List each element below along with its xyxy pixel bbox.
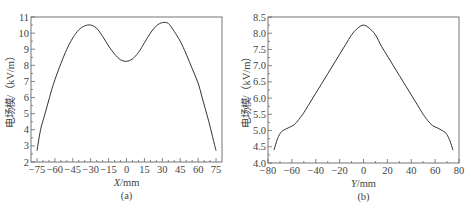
y-tick-label: 5.5 [253,109,266,120]
x-tick-label: −60 [47,164,63,175]
y-tick-label: 9 [24,44,29,55]
plot-frame [268,17,459,163]
x-tick-label: −15 [100,164,116,175]
x-tick-label: 45 [175,164,186,175]
x-tick-label: 40 [406,165,417,176]
y-tick-label: 4.0 [253,158,266,169]
plot-frame [31,17,222,162]
y-tick-label: 6 [24,92,29,103]
figure: −75−60−45−30−1501530456075234567891011X/… [0,0,471,210]
y-tick-label: 5.0 [253,125,266,136]
x-tick-label: 20 [382,165,393,176]
y-tick-label: 6.5 [253,76,266,87]
y-tick-label: 4 [24,124,30,135]
x-tick-label: 15 [139,164,150,175]
x-tick-label: 0 [124,164,129,175]
x-tick-label: −75 [29,164,45,175]
x-tick-label: −40 [308,165,324,176]
x-axis-title: Y/mm [351,178,376,189]
x-tick-label: −20 [331,165,347,176]
y-tick-label: 7.5 [253,44,266,55]
x-tick-label: −60 [284,165,300,176]
y-tick-label: 2 [24,157,29,168]
chart-a: −75−60−45−30−1501530456075234567891011X/… [4,12,222,203]
y-axis-title: 电场模/（kV/m） [4,51,16,128]
y-tick-label: 8.5 [253,12,266,23]
x-tick-label: 80 [454,165,465,176]
y-tick-label: 10 [19,28,30,39]
y-axis-title: 电场模/（kV/m） [240,52,252,129]
x-tick-label: 0 [361,165,366,176]
x-tick-label: 75 [211,164,222,175]
x-axis-title: X/mm [113,177,140,188]
y-tick-label: 6.0 [253,93,266,104]
y-tick-label: 7 [24,76,29,87]
y-tick-label: 8.0 [253,28,266,39]
y-tick-label: 5 [24,108,29,119]
x-tick-label: −30 [82,164,98,175]
subfigure-caption: (b) [357,191,370,203]
x-tick-label: −45 [65,164,81,175]
y-tick-label: 3 [24,140,29,151]
y-tick-label: 7.0 [253,60,266,71]
x-tick-label: 60 [430,165,441,176]
y-tick-label: 11 [19,12,29,23]
y-tick-label: 4.5 [253,141,266,152]
chart-b: −80−60−40−200204060804.04.55.05.56.06.57… [240,12,464,204]
x-tick-label: 60 [193,164,204,175]
subfigure-caption: (a) [121,190,133,202]
y-tick-label: 8 [24,60,29,71]
data-curve [274,25,453,150]
data-curve [37,22,216,150]
x-tick-label: 30 [157,164,168,175]
